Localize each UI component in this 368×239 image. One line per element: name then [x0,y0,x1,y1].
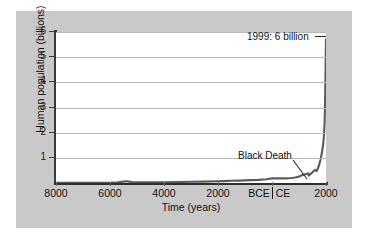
y-tick-label-3: 3 [40,100,46,113]
x-tick-2000bce [218,182,219,186]
x-tick-label-6000bce: 6000 [98,187,121,199]
x-axis-title: Time (years) [54,201,328,213]
y-tick-label-5: 5 [40,49,46,62]
chart-figure: Human population (billions) 6 5 4 3 2 [16,11,352,228]
gridline-4 [56,82,326,83]
y-axis-title: Human population (billions) [34,0,46,139]
x-tick-2000ce [326,182,327,186]
x-tick-8000bce [56,182,57,186]
x-tick-zero [272,182,273,186]
gridline-5 [56,57,326,58]
era-divider [272,187,273,199]
y-tick-label-6: 6 [40,24,46,37]
x-tick-label-4000bce: 4000 [152,187,175,199]
y-tick-label-2: 2 [40,125,46,138]
gridline-2 [56,133,326,134]
gridline-3 [56,108,326,109]
annotation-1999-leader-line [315,36,326,37]
x-tick-label-2000ce: 2000 [314,187,337,199]
y-tick-label-1: 1 [40,150,46,163]
x-tick-label-ce: CE [276,187,291,199]
x-tick-label-8000bce: 8000 [44,187,67,199]
x-tick-4000bce [164,182,165,186]
annotation-1999-6-billion: 1999: 6 billion [247,31,309,42]
annotation-black-death: Black Death [238,150,292,161]
annotation-black-death-leader-line [292,159,316,183]
x-tick-6000bce [110,182,111,186]
y-tick-label-4: 4 [40,74,46,87]
x-tick-label-bce: BCE [248,187,270,199]
x-tick-label-2000bce: 2000 [206,187,229,199]
